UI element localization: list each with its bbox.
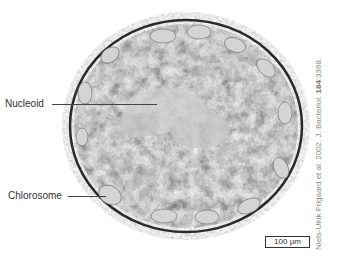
nucleoid-label: Nucleoid: [5, 98, 44, 109]
scale-bar: 100 µm: [265, 236, 310, 248]
cell-micrograph: [0, 0, 337, 258]
nucleoid-leader-line: [52, 104, 157, 105]
chlorosome-leader-line: [68, 196, 106, 197]
micrograph-figure: Nucleoid Chlorosome 100 µm Niels-Ulrik F…: [0, 0, 337, 258]
credit-pages: :3368.: [314, 58, 323, 80]
chlorosome-label: Chlorosome: [8, 190, 62, 201]
credit-text: Niels-Ulrik Frigaard et al. 2002. J. Bac…: [314, 94, 323, 251]
credit-volume: 184: [314, 80, 323, 93]
image-credit: Niels-Ulrik Frigaard et al. 2002. J. Bac…: [314, 58, 323, 250]
scale-bar-text: 100 µm: [274, 237, 301, 246]
